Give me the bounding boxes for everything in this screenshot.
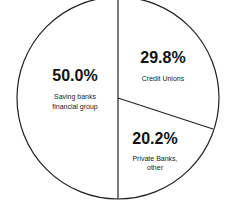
slice-label-line1: Saving banks — [54, 93, 97, 101]
pie-chart: 50.0% Saving banks financial group 29.8%… — [0, 0, 233, 215]
slice-label-line1: Credit Unions — [142, 75, 185, 82]
slice-credit-unions: 29.8% Credit Unions — [140, 49, 185, 82]
slice-value: 20.2% — [132, 130, 177, 147]
slice-label-line1: Private Banks, — [132, 155, 177, 162]
slice-value: 29.8% — [140, 49, 185, 66]
slice-label-line2: other — [147, 164, 164, 171]
slice-label-line2: financial group — [52, 103, 98, 111]
slice-value: 50.0% — [52, 67, 97, 84]
